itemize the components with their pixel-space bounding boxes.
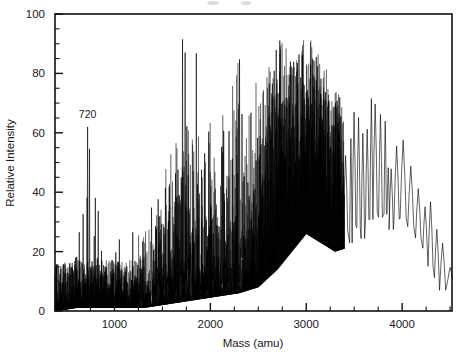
x-axis-title: Mass (amu) — [223, 337, 284, 349]
y-tick-label: 60 — [32, 127, 45, 139]
x-tick-label: 4000 — [389, 318, 415, 330]
peak-label-720: 720 — [79, 108, 97, 120]
x-tick-label: 2000 — [198, 318, 224, 330]
y-tick-label: 40 — [32, 186, 45, 198]
y-tick-label: 80 — [32, 67, 45, 79]
scan-artifact — [207, 1, 251, 5]
y-axis-ticks — [55, 14, 63, 311]
y-axis-title: Relative Intensity — [4, 119, 16, 207]
y-axis-tick-labels: 020406080100 — [26, 8, 45, 317]
mass-spectrum-figure: 020406080100 1000200030004000 Mass (amu)… — [0, 0, 463, 359]
x-axis-tick-labels: 1000200030004000 — [102, 318, 415, 330]
spectrum-plot: 020406080100 1000200030004000 Mass (amu)… — [0, 0, 463, 359]
y-tick-label: 0 — [39, 305, 45, 317]
x-tick-label: 3000 — [293, 318, 319, 330]
spectrum-trace — [55, 39, 453, 311]
y-tick-label: 100 — [26, 8, 45, 20]
x-tick-label: 1000 — [102, 318, 128, 330]
y-tick-label: 20 — [32, 246, 45, 258]
